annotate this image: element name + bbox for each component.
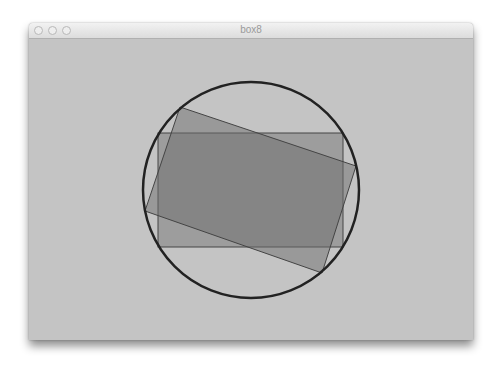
title-bar[interactable]: box8 [29,23,473,39]
rotated-rectangle [145,107,356,273]
window-title: box8 [29,24,473,35]
app-window: box8 [29,23,473,340]
drawing-canvas [29,39,473,340]
